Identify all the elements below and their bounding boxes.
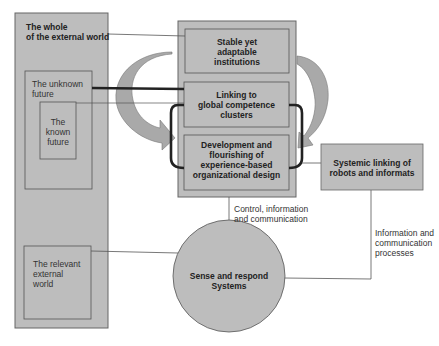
sense-respond-label: Sense and respond Systems: [173, 271, 285, 291]
connector-external-to-stable: [108, 34, 185, 36]
relevant-world-line2: external: [33, 269, 80, 279]
relevant-world-label: The relevant external world: [33, 259, 80, 289]
control-line1: Control, information: [234, 204, 308, 214]
external-world-label-line2: of the external world: [26, 32, 109, 42]
info-line2: communication: [375, 238, 434, 248]
known-future-line2: known: [40, 127, 76, 137]
relevant-world-line1: The relevant: [33, 259, 80, 269]
stable-institutions-label: Stable yet adaptable institutions: [185, 37, 289, 67]
linking-clusters-label: Linking to global competence clusters: [184, 90, 289, 120]
control-line2: and communication: [234, 214, 308, 224]
known-future-line3: future: [40, 137, 76, 147]
thick-connector-unknown-to-linking: [92, 88, 184, 89]
info-line1: Information and: [375, 228, 434, 238]
sense-respond-line1: Sense and respond: [173, 271, 285, 281]
external-world-label-line1: The whole: [26, 22, 109, 32]
development-line1: Development and: [184, 140, 289, 150]
stable-line2: adaptable: [185, 47, 289, 57]
robots-line1: Systemic linking of: [321, 158, 423, 168]
development-label: Development and flourishing of experienc…: [184, 140, 289, 180]
control-label: Control, information and communication: [234, 204, 308, 224]
external-world-label: The whole of the external world: [26, 22, 109, 42]
left-curved-arrow: [116, 52, 175, 150]
robots-line2: robots and informats: [321, 168, 423, 178]
sense-respond-line2: Systems: [173, 281, 285, 291]
stable-line1: Stable yet: [185, 37, 289, 47]
info-line3: processes: [375, 248, 434, 258]
unknown-future-line2: future: [32, 89, 83, 99]
development-line2: flourishing of: [184, 150, 289, 160]
connector-circle-to-right: [284, 278, 371, 279]
robots-label: Systemic linking of robots and informats: [321, 158, 423, 178]
linking-line3: clusters: [184, 110, 289, 120]
development-line4: organizational design: [184, 170, 289, 180]
unknown-future-line1: The unknown: [32, 79, 83, 89]
info-processes-label: Information and communication processes: [375, 228, 434, 258]
linking-line1: Linking to: [184, 90, 289, 100]
relevant-world-line3: world: [33, 279, 80, 289]
known-future-line1: The: [40, 117, 76, 127]
stable-line3: institutions: [185, 57, 289, 67]
known-future-label: The known future: [40, 117, 76, 147]
development-line3: experience-based: [184, 160, 289, 170]
unknown-future-label: The unknown future: [32, 79, 83, 99]
linking-line2: global competence: [184, 100, 289, 110]
